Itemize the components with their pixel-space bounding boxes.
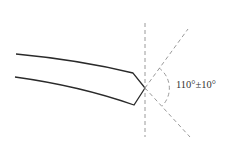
angle-label: 110°±10°	[176, 79, 216, 91]
blade-tip-diagram	[0, 0, 231, 149]
angle-arc	[159, 68, 169, 106]
blade-upper-edge	[16, 54, 145, 88]
blade-lower-edge	[15, 77, 145, 105]
lower-angle-ray	[145, 88, 190, 137]
